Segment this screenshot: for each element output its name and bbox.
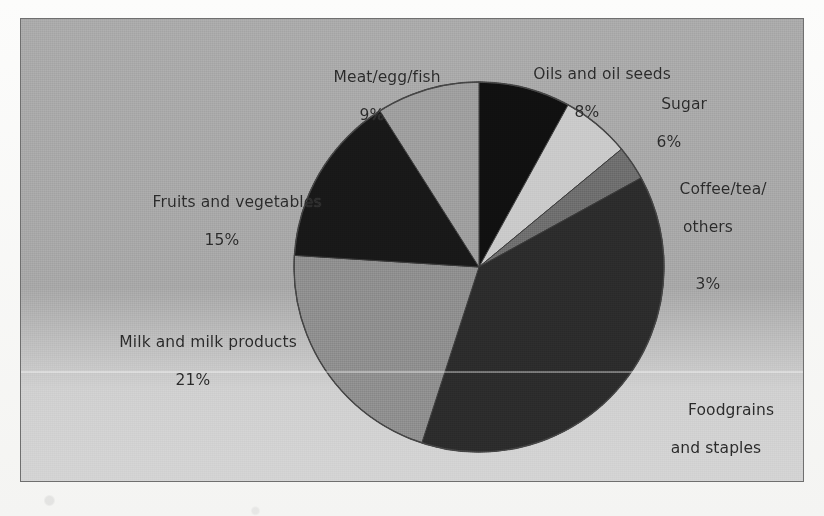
pie-label-meat-egg-fish-text: Meat/egg/fish: [334, 68, 441, 86]
pie-label-coffee-tea-others: Coffee/tea/ others 3%: [633, 161, 783, 332]
pie-label-sugar-value: 6%: [599, 133, 739, 152]
chart-frame: Meat/egg/fish 9% Oils and oil seeds 8% S…: [20, 18, 804, 482]
pie-label-foodgrains-and-staples-text-line1: Foodgrains: [688, 401, 774, 419]
pie-label-meat-egg-fish-value: 9%: [277, 106, 467, 125]
pie-label-fruits-and-vegetables-value: 15%: [97, 231, 347, 250]
pie-label-milk-and-milk-products-text: Milk and milk products: [119, 333, 296, 351]
scanned-page: Meat/egg/fish 9% Oils and oil seeds 8% S…: [0, 0, 824, 516]
pie-label-fruits-and-vegetables-text: Fruits and vegetables: [153, 193, 322, 211]
pie-label-coffee-tea-others-text-line2: others: [633, 218, 783, 237]
pie-label-milk-and-milk-products-value: 21%: [63, 371, 323, 390]
pie-label-fruits-and-vegetables: Fruits and vegetables 15%: [97, 174, 347, 288]
pie-label-coffee-tea-others-text-line1: Coffee/tea/: [680, 180, 767, 198]
pie-label-foodgrains-and-staples-text-line2: and staples: [621, 439, 804, 458]
pie-label-foodgrains-and-staples: Foodgrains and staples 38%: [621, 382, 804, 482]
pie-label-coffee-tea-others-value: 3%: [633, 275, 783, 294]
pie-label-meat-egg-fish: Meat/egg/fish 9%: [277, 49, 467, 163]
pie-label-sugar-text: Sugar: [661, 95, 707, 113]
pie-label-milk-and-milk-products: Milk and milk products 21%: [63, 314, 323, 428]
